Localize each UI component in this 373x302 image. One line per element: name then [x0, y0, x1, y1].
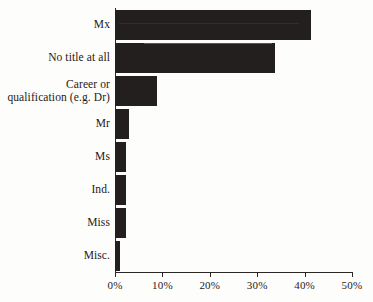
bar-row — [115, 208, 352, 238]
x-axis-tick-label: 30% — [235, 279, 279, 291]
x-axis-tick — [257, 272, 258, 277]
bar-row — [115, 109, 352, 139]
caption-strip — [18, 296, 358, 302]
x-axis-tick-label: 40% — [283, 279, 327, 291]
bar — [115, 241, 120, 271]
category-label: Ind. — [91, 183, 110, 196]
bar — [115, 109, 129, 139]
category-label: Misc. — [84, 249, 110, 262]
bar-row — [115, 142, 352, 172]
category-label: Career or qualification (e.g. Dr) — [7, 78, 110, 103]
bar-row — [115, 10, 352, 40]
bar-row — [115, 175, 352, 205]
bar-row — [115, 76, 352, 106]
bar — [115, 76, 157, 106]
x-axis-tick-label: 20% — [188, 279, 232, 291]
x-axis-line — [115, 272, 353, 273]
bar-row — [115, 43, 352, 73]
bar-row — [115, 241, 352, 271]
x-axis-tick-label: 10% — [140, 279, 184, 291]
x-axis-tick — [305, 272, 306, 277]
x-axis-tick — [210, 272, 211, 277]
x-axis-tick — [352, 272, 353, 277]
bar — [115, 142, 126, 172]
category-label: Mr — [96, 117, 110, 130]
category-label: No title at all — [48, 51, 110, 64]
bar — [115, 10, 311, 40]
category-label: Miss — [87, 216, 110, 229]
category-label: Mx — [94, 18, 110, 31]
bar — [115, 175, 126, 205]
bar-chart-figure: MxNo title at allCareer or qualification… — [0, 0, 373, 302]
x-axis-tick-label: 0% — [93, 279, 137, 291]
bar — [115, 208, 126, 238]
x-axis-tick-label: 50% — [330, 279, 373, 291]
category-label: Ms — [95, 150, 110, 163]
bar — [115, 43, 275, 73]
x-axis-tick — [162, 272, 163, 277]
x-axis-tick — [115, 272, 116, 277]
